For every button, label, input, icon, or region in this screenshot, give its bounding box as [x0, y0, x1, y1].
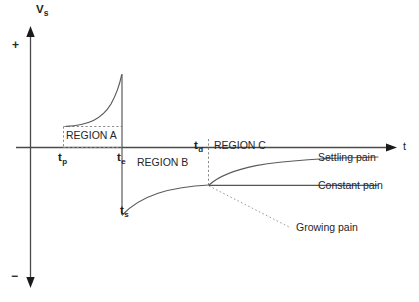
region-b-recovery-curve — [122, 185, 209, 215]
vibration-pain-diagram: Vs + − t tp te td ts REGION A REGION B R… — [0, 0, 419, 302]
time-marker-te-subscript: e — [121, 157, 125, 166]
region-a-label: REGION A — [66, 130, 117, 141]
time-marker-ts-subscript: s — [124, 210, 128, 219]
region-c-label: REGION C — [214, 140, 266, 151]
y-axis-arrow-up-icon — [26, 26, 34, 37]
time-marker-tp: tp — [58, 152, 67, 164]
time-marker-td-subscript: d — [198, 145, 203, 154]
time-marker-tp-subscript: p — [62, 157, 67, 166]
settling-pain-label: Settling pain — [318, 152, 376, 163]
time-marker-te: te — [117, 152, 125, 164]
time-marker-td: td — [194, 140, 203, 152]
y-axis-negative-sign: − — [11, 270, 18, 282]
constant-pain-label: Constant pain — [318, 180, 383, 191]
y-axis-positive-sign: + — [12, 39, 19, 51]
x-axis-label: t — [403, 141, 406, 152]
growing-pain-line — [209, 186, 291, 228]
time-marker-ts: ts — [120, 205, 128, 217]
y-axis-label-subscript: s — [44, 8, 49, 18]
region-b-label: REGION B — [137, 157, 188, 168]
y-axis-arrow-down-icon — [26, 277, 34, 288]
x-axis-arrow-icon — [386, 143, 397, 151]
growing-pain-label: Growing pain — [296, 222, 358, 233]
y-axis-label: Vs — [36, 4, 48, 16]
region-a-rise-curve — [66, 75, 122, 126]
